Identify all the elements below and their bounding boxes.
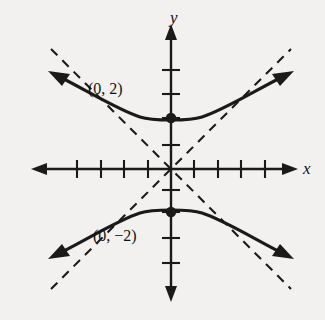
vertex-label-negative: (0, −2) <box>93 228 137 244</box>
vertex-label-positive: (0, 2) <box>88 81 123 97</box>
vertex-point-negative <box>166 207 176 217</box>
x-axis-label: x <box>303 160 311 177</box>
vertex-point-positive <box>166 113 176 123</box>
x-axis-arrow-left <box>31 163 47 175</box>
upper-branch-arrow-left <box>48 71 70 86</box>
hyperbola-figure: y x (0, 2) (0, −2) <box>0 0 325 320</box>
lower-branch-arrow-left <box>48 244 70 259</box>
y-axis-label: y <box>170 9 178 26</box>
graph-canvas <box>0 0 325 320</box>
lower-branch-arrow-right <box>272 244 294 259</box>
y-axis-arrow-down <box>165 286 177 302</box>
upper-branch-arrow-right <box>272 71 294 86</box>
x-axis-arrow-right <box>282 163 298 175</box>
